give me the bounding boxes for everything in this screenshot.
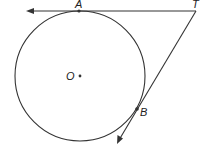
arrowhead-left-icon <box>26 8 34 14</box>
label-b: B <box>140 106 147 118</box>
label-a: A <box>74 0 82 10</box>
label-o: O <box>66 70 75 82</box>
tangent-line-tb <box>119 11 196 140</box>
point-o <box>79 75 82 78</box>
arrowhead-down-left-icon <box>117 135 123 144</box>
point-b <box>135 107 139 111</box>
diagram-canvas: A T B O <box>0 0 210 150</box>
label-t: T <box>192 0 200 10</box>
